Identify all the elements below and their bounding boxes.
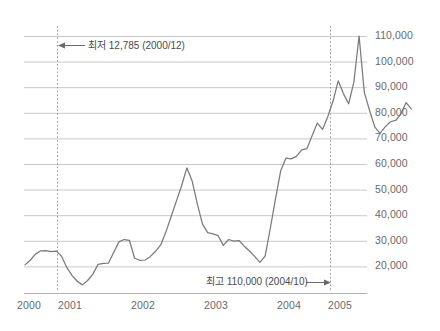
x-axis-tick-label: 2003 xyxy=(200,300,232,311)
y-axis-tick-label: 80,000 xyxy=(375,107,408,118)
x-axis-tick-label: 2000 xyxy=(13,300,45,311)
y-axis-tick-label: 70,000 xyxy=(375,132,408,143)
x-axis-tick-label: 2001 xyxy=(54,300,86,311)
y-axis-tick-label: 50,000 xyxy=(375,184,408,195)
min-annotation-label: 최저 12,785 (2000/12) xyxy=(88,40,185,51)
data-series xyxy=(25,36,411,285)
y-axis-tick-label: 100,000 xyxy=(375,56,414,67)
y-axis-tick-label: 110,000 xyxy=(375,30,413,41)
y-axis-tick-label: 60,000 xyxy=(375,158,408,169)
max-annotation-arrow-icon xyxy=(306,280,331,286)
x-axis-tick-label: 2002 xyxy=(127,300,159,311)
series-line xyxy=(25,36,411,285)
x-axis-tick-label: 2005 xyxy=(324,300,356,311)
y-axis-tick-label: 90,000 xyxy=(375,81,408,92)
y-axis-tick-label: 20,000 xyxy=(375,260,408,271)
gridlines xyxy=(24,37,367,267)
x-axis-tick-label: 2004 xyxy=(273,300,305,311)
line-chart: 110,000100,00090,00080,00070,00060,00050… xyxy=(0,0,440,331)
min-annotation-arrow-icon xyxy=(58,43,85,49)
y-axis-tick-label: 30,000 xyxy=(375,235,408,246)
y-axis-tick-label: 40,000 xyxy=(375,209,408,220)
max-annotation-label: 최고 110,000 (2004/10) xyxy=(206,276,308,287)
